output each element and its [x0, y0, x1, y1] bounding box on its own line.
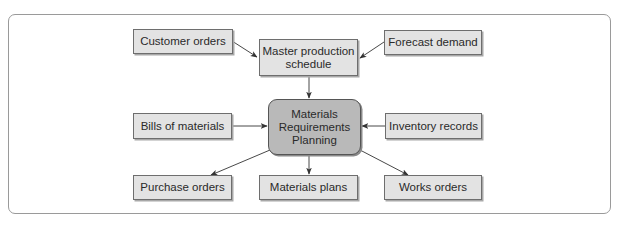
node-works-orders: Works orders [384, 175, 482, 200]
node-inventory-records: Inventory records [385, 113, 482, 139]
node-bills-of-materials: Bills of materials [133, 113, 232, 139]
node-materials-plans: Materials plans [259, 175, 358, 200]
node-master-production-schedule: Master production schedule [259, 39, 358, 76]
node-mrp: Materials Requirements Planning [268, 99, 361, 155]
node-forecast-demand: Forecast demand [384, 30, 482, 55]
node-customer-orders: Customer orders [133, 29, 233, 54]
node-purchase-orders: Purchase orders [133, 175, 232, 200]
